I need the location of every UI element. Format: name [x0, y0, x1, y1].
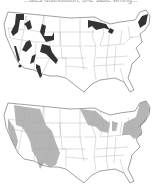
range-map-top: [0, 6, 161, 94]
figure-caption: ...ates distribution, one state wrong...: [0, 0, 161, 4]
shaded-states: [8, 101, 150, 169]
state-map-bottom: [0, 97, 161, 187]
